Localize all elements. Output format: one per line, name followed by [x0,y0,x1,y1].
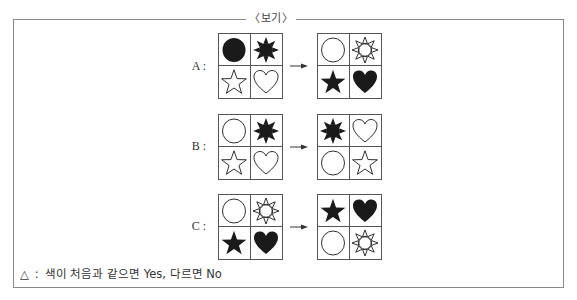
cell-heart-outline [251,66,283,98]
triangle-icon: △ [20,267,29,281]
cell-star-outline [219,147,251,179]
circle-outline-icon [220,197,248,225]
cell-circle-filled [219,34,251,66]
sun-outline-icon [351,229,379,257]
heart-filled-icon [252,229,280,257]
cell-circle-outline [219,195,251,227]
arrow-right-icon [290,224,308,230]
cell-heart-outline [350,115,382,147]
star-filled-icon [220,229,248,257]
legend-separator: : [35,267,39,281]
cell-sun-outline [350,34,382,66]
star-outline-icon [220,149,248,177]
star-filled-icon [319,197,347,225]
heart-filled-icon [351,68,379,96]
cell-star-outline [350,147,382,179]
row-label-b: B : [176,139,206,154]
cell-sun-outline [251,195,283,227]
cell-sun-filled [251,115,283,147]
row-label-c: C : [176,219,206,234]
cell-star-filled [219,227,251,259]
circle-outline-icon [319,36,347,64]
circle-filled-icon [220,36,248,64]
sun-filled-icon [319,117,347,145]
cell-star-filled [318,66,350,98]
cell-star-outline [219,66,251,98]
grid-c-after [317,194,382,260]
legend-text: 색이 처음과 같으면 Yes, 다르면 No [45,267,222,281]
grid-a-before [218,33,283,99]
grid-b-before [218,114,283,180]
cell-circle-outline [219,115,251,147]
cell-sun-outline [350,227,382,259]
cell-heart-filled [350,195,382,227]
circle-outline-icon [319,229,347,257]
box-title: 〈보기〉 [246,11,296,27]
cell-sun-filled [251,34,283,66]
cell-heart-outline [251,147,283,179]
sun-outline-icon [252,197,280,225]
sun-filled-icon [252,117,280,145]
example-box [13,19,564,288]
cell-circle-outline [318,227,350,259]
star-filled-icon [319,68,347,96]
arrow-right-icon [290,144,308,150]
sun-outline-icon [351,36,379,64]
heart-outline-icon [252,149,280,177]
arrow-right-icon [290,63,308,69]
grid-b-after [317,114,382,180]
heart-outline-icon [351,117,379,145]
heart-outline-icon [252,68,280,96]
star-outline-icon [351,149,379,177]
heart-filled-icon [351,197,379,225]
grid-c-before [218,194,283,260]
circle-outline-icon [319,149,347,177]
cell-circle-outline [318,34,350,66]
cell-heart-filled [251,227,283,259]
star-outline-icon [220,68,248,96]
cell-heart-filled [350,66,382,98]
cell-sun-filled [318,115,350,147]
row-label-a: A : [176,59,206,74]
circle-outline-icon [220,117,248,145]
cell-circle-outline [318,147,350,179]
cell-star-filled [318,195,350,227]
grid-a-after [317,33,382,99]
legend: △:색이 처음과 같으면 Yes, 다르면 No [20,265,222,281]
sun-filled-icon [252,36,280,64]
